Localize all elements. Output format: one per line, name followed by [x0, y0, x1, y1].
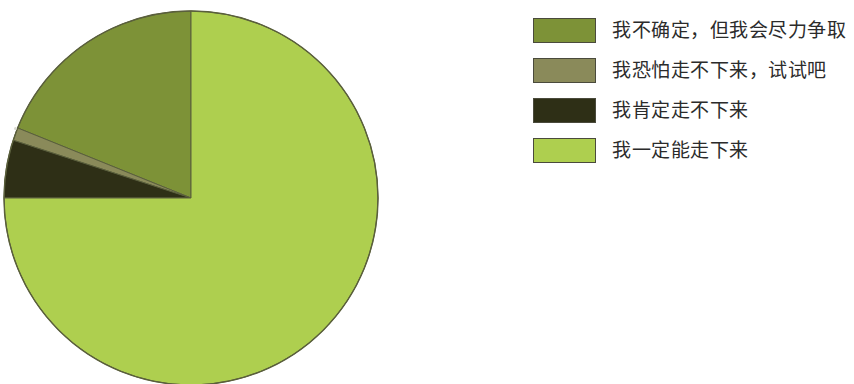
legend-item: 我肯定走不下来	[533, 90, 854, 130]
pie-chart-area	[0, 0, 400, 384]
legend-label: 我肯定走不下来	[612, 98, 749, 123]
legend-item: 我一定能走下来	[533, 130, 854, 170]
legend-label: 我恐怕走不下来，试试吧	[612, 58, 827, 83]
scan-speck	[14, 127, 17, 130]
legend-label: 我不确定，但我会尽力争取	[612, 18, 846, 43]
chart-legend: 我不确定，但我会尽力争取 我恐怕走不下来，试试吧 我肯定走不下来 我一定能走下来	[533, 10, 854, 170]
chart-page: 我不确定，但我会尽力争取 我恐怕走不下来，试试吧 我肯定走不下来 我一定能走下来	[0, 0, 854, 384]
legend-item: 我不确定，但我会尽力争取	[533, 10, 854, 50]
legend-swatch-definitely-can-finish	[533, 138, 596, 163]
pie-slice-group	[4, 11, 378, 384]
pie-chart-svg	[0, 0, 400, 384]
legend-swatch-probably-cannot-finish	[533, 58, 596, 83]
legend-swatch-definitely-cannot-finish	[533, 98, 596, 123]
legend-item: 我恐怕走不下来，试试吧	[533, 50, 854, 90]
legend-label: 我一定能走下来	[612, 138, 749, 163]
legend-swatch-uncertain-but-try	[533, 18, 596, 43]
